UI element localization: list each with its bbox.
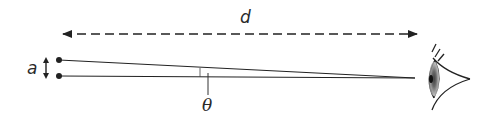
angle-label: θ (202, 97, 212, 114)
separation-label: a (27, 60, 37, 77)
distance-label: d (240, 9, 251, 26)
angular-size-diagram: d a θ (0, 0, 494, 125)
separation-arrow (43, 57, 49, 79)
eye-icon (429, 44, 470, 110)
sight-lines (59, 60, 415, 78)
angle-marker (200, 68, 208, 95)
